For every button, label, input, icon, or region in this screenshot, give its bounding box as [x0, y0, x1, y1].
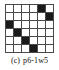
grid-cell-empty — [38, 45, 46, 53]
grid-cell-empty — [22, 45, 30, 53]
grid-cell-empty — [14, 5, 22, 13]
grid-cell-empty — [22, 21, 30, 29]
grid-cell-empty — [14, 45, 22, 53]
grid-cell-empty — [46, 37, 54, 45]
grid-cell-empty — [30, 13, 38, 21]
figure-caption: (c)p6-1w5 — [11, 56, 48, 66]
caption-name: p6-1w5 — [23, 56, 48, 65]
grid-cell-empty — [46, 5, 54, 13]
grid-cell-empty — [6, 45, 14, 53]
grid-cell-empty — [22, 29, 30, 37]
grid-cell-empty — [6, 29, 14, 37]
grid-cell-empty — [6, 37, 14, 45]
grid-cell-empty — [22, 13, 30, 21]
grid-cell-empty — [38, 13, 46, 21]
caption-index: (c) — [11, 56, 20, 65]
grid-cell-empty — [46, 21, 54, 29]
grid-cell-filled — [38, 5, 46, 13]
grid-cell-empty — [14, 13, 22, 21]
grid-cell-empty — [30, 21, 38, 29]
puzzle-grid — [5, 4, 54, 53]
grid-cell-filled — [14, 29, 22, 37]
grid-cell-filled — [22, 37, 30, 45]
grid-cell-empty — [14, 21, 22, 29]
puzzle-figure: (c)p6-1w5 — [0, 0, 59, 70]
grid-cell-empty — [6, 5, 14, 13]
grid-cell-empty — [38, 37, 46, 45]
grid-cell-empty — [30, 5, 38, 13]
grid-cell-empty — [38, 29, 46, 37]
grid-cell-empty — [22, 5, 30, 13]
grid-cell-empty — [46, 45, 54, 53]
grid-cell-empty — [30, 37, 38, 45]
grid-cell-filled — [30, 45, 38, 53]
grid-cell-filled — [46, 13, 54, 21]
grid-cell-empty — [14, 37, 22, 45]
grid-cell-empty — [38, 21, 46, 29]
grid-cell-filled — [6, 21, 14, 29]
grid-cell-empty — [30, 29, 38, 37]
grid-cell-empty — [46, 29, 54, 37]
grid-cell-empty — [6, 13, 14, 21]
